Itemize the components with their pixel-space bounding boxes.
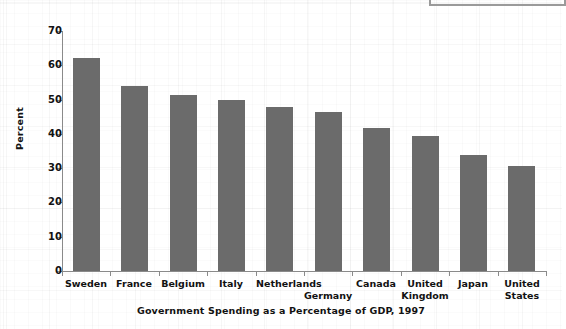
bar [508,166,535,271]
bar [412,136,439,271]
chart-caption: Government Spending as a Percentage of G… [0,305,562,316]
y-axis-line [62,31,63,272]
y-tick-label: 0 [12,266,62,276]
x-category-label-line2: Germany [304,290,352,302]
x-category-label: UnitedStates [498,278,546,301]
x-tick-mark [159,271,160,276]
x-category-label-line1: Sweden [65,278,107,289]
x-tick-mark [110,271,111,276]
x-category-label: Netherlands [256,278,304,290]
x-category-label: France [110,278,158,290]
y-axis-title: Percent [14,80,25,150]
x-category-label: Italy [207,278,255,290]
y-tick-label: 60 [12,60,62,70]
bar [460,155,487,271]
x-tick-mark [498,271,499,276]
x-tick-mark [62,271,63,276]
x-category-label-line1 [326,278,329,289]
bar [170,95,197,271]
x-category-label: Canada [352,278,400,290]
x-tick-mark [207,271,208,276]
x-category-label-line1: Belgium [161,278,205,289]
x-category-label: Germany [304,278,352,301]
x-tick-mark [546,271,547,276]
x-category-label: Belgium [159,278,207,290]
y-tick-label: 70 [12,26,62,36]
x-category-label-line1: United [407,278,443,289]
x-category-label-line1: Italy [219,278,243,289]
x-category-label-line1: United [504,278,540,289]
x-category-label: UnitedKingdom [401,278,449,301]
page-frame-corner [429,0,566,6]
x-tick-mark [352,271,353,276]
x-category-label-line1: France [116,278,152,289]
y-tick-label: 50 [12,95,62,105]
y-tick-label: 40 [12,129,62,139]
x-category-label-line2: States [498,290,546,302]
bar [315,112,342,271]
x-tick-mark [449,271,450,276]
x-category-label: Japan [449,278,497,290]
x-category-label-line1: Canada [356,278,396,289]
x-category-label-line1: Japan [458,278,488,289]
y-tick-label: 10 [12,232,62,242]
bar [218,100,245,271]
bar [266,107,293,271]
y-tick-label: 30 [12,163,62,173]
x-category-label: Sweden [62,278,110,290]
x-tick-mark [304,271,305,276]
x-category-label-line2: Kingdom [401,290,449,302]
x-tick-mark [256,271,257,276]
bar [73,58,100,271]
y-tick-label: 20 [12,197,62,207]
bar [363,128,390,271]
bar [121,86,148,271]
x-tick-mark [401,271,402,276]
